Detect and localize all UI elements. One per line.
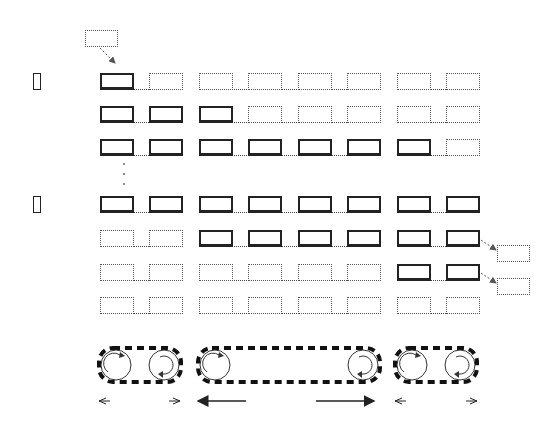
travel-arrows: [0, 0, 554, 428]
